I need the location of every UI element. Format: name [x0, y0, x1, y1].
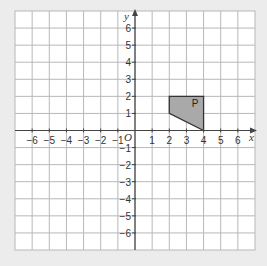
y-tick-label: 1: [125, 108, 131, 119]
origin-label: O: [124, 131, 132, 143]
x-tick-label: 5: [218, 135, 224, 146]
y-tick-label: −2: [120, 160, 132, 171]
y-tick-label: −6: [120, 228, 132, 239]
x-tick-label: 6: [235, 135, 241, 146]
y-tick-label: −1: [120, 143, 132, 154]
y-tick-label: −4: [120, 194, 132, 205]
x-tick-label: −5: [44, 135, 56, 146]
y-axis-label: y: [123, 10, 129, 22]
y-tick-label: 3: [125, 74, 131, 85]
x-axis-label: x: [248, 131, 254, 143]
shape-label: P: [192, 98, 199, 109]
x-tick-label: −4: [61, 135, 73, 146]
y-tick-label: −5: [120, 211, 132, 222]
y-tick-label: 4: [125, 57, 131, 68]
y-tick-label: 6: [125, 23, 131, 34]
y-tick-label: −3: [120, 177, 132, 188]
x-tick-label: 1: [149, 135, 155, 146]
x-tick-label: −2: [95, 135, 107, 146]
x-tick-label: −6: [26, 135, 38, 146]
y-tick-label: 2: [125, 91, 131, 102]
coordinate-grid: P x y O −6−5−4−3−2−1123456−6−5−4−3−2−112…: [0, 0, 267, 266]
x-tick-label: 4: [201, 135, 207, 146]
x-tick-label: 3: [184, 135, 190, 146]
x-tick-label: 2: [167, 135, 173, 146]
y-tick-label: 5: [125, 40, 131, 51]
x-tick-label: −3: [78, 135, 90, 146]
